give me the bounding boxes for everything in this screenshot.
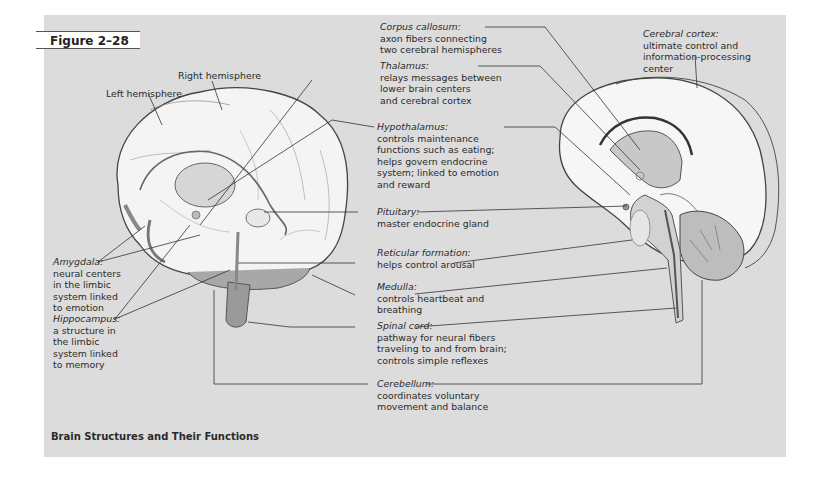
cerebral-cortex-label: Cerebral cortex: ultimate control and in…: [643, 28, 751, 74]
thalamus-label: Thalamus: relays messages between lower …: [380, 60, 502, 106]
pituitary-label: Pituitary: master endocrine gland: [377, 206, 489, 229]
medulla-label: Medulla: controls heartbeat and breathin…: [377, 281, 484, 316]
right-hemisphere-label: Right hemisphere: [178, 70, 261, 81]
amygdala-label: Amygdala: neural centers in the limbic s…: [53, 256, 121, 314]
figure-caption: Brain Structures and Their Functions: [51, 431, 259, 442]
reticular-formation-label: Reticular formation: helps control arous…: [377, 247, 475, 270]
hippocampus-term: Hippocampus:: [53, 313, 120, 325]
corpus-callosum-label: Corpus callosum: axon fibers connecting …: [380, 21, 502, 56]
hippocampus-label: Hippocampus: a structure in the limbic s…: [53, 313, 120, 371]
spinal-cord-label: Spinal cord: pathway for neural fibers t…: [377, 320, 507, 366]
left-hemisphere-label: Left hemisphere: [106, 88, 182, 99]
right-brain-drawing: [560, 77, 779, 323]
cerebellum-label: Cerebellum: coordinates voluntary moveme…: [377, 378, 488, 413]
amygdala-term: Amygdala:: [53, 256, 121, 268]
left-brain-drawing: [117, 88, 348, 327]
hypothalamus-label: Hypothalamus: controls maintenance funct…: [377, 121, 499, 191]
